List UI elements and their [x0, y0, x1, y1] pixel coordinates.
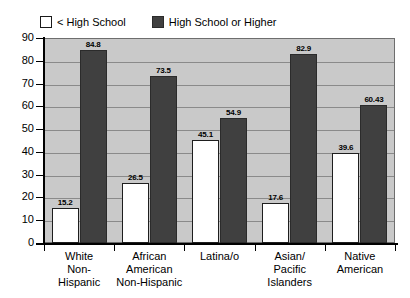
bar-value-label: 45.1: [188, 130, 223, 139]
bar: [360, 105, 387, 243]
y-axis-tick-mark: [36, 243, 44, 244]
bar-value-label: 54.9: [216, 108, 251, 117]
y-axis-tick-mark: [36, 129, 44, 130]
bar: [122, 183, 149, 243]
bar: [220, 118, 247, 243]
dark-square-icon: [152, 16, 164, 28]
y-axis-tick-label: 40: [8, 146, 34, 157]
light-square-icon: [40, 16, 52, 28]
legend-entry-less-than-high-school: < High School: [40, 16, 126, 28]
y-axis-tick-label: 60: [8, 100, 34, 111]
bar-value-label: 73.5: [146, 66, 181, 75]
x-axis-line: [36, 243, 398, 245]
y-axis-tick-label: 80: [8, 55, 34, 66]
y-axis-tick-mark: [36, 175, 44, 176]
y-axis-tick-label: 10: [8, 214, 34, 225]
legend-label: < High School: [57, 16, 126, 28]
y-axis-tick-label: 30: [8, 169, 34, 180]
y-axis-tick-label: 70: [8, 78, 34, 89]
bar: [150, 76, 177, 243]
bar: [192, 140, 219, 243]
bar: [52, 208, 79, 243]
bar-value-label: 60.43: [356, 95, 391, 104]
bar-value-label: 15.2: [48, 198, 83, 207]
y-axis-tick-mark: [36, 220, 44, 221]
legend-entry-high-school-or-higher: High School or Higher: [152, 16, 277, 28]
y-axis-tick-labels: 9080706050403020100: [0, 0, 34, 298]
bar: [262, 203, 289, 243]
y-axis-tick-mark: [36, 197, 44, 198]
bar-value-label: 82.9: [286, 44, 321, 53]
x-axis-category-label: Native American: [317, 250, 403, 276]
y-axis-tick-mark: [36, 61, 44, 62]
chart-legend: < High School High School or Higher: [40, 12, 276, 32]
bar-value-label: 26.5: [118, 173, 153, 182]
y-axis-tick-mark: [36, 152, 44, 153]
y-axis-tick-label: 0: [8, 237, 34, 248]
bar-chart: < High School High School or Higher 9080…: [0, 0, 410, 298]
legend-label: High School or Higher: [169, 16, 277, 28]
y-axis-tick-mark: [36, 38, 44, 39]
bar-value-label: 17.6: [258, 193, 293, 202]
bar-value-label: 84.8: [76, 40, 111, 49]
bar: [80, 50, 107, 243]
bar-value-label: 39.6: [328, 143, 363, 152]
y-axis-line: [43, 37, 45, 245]
bar: [290, 54, 317, 243]
y-axis-tick-label: 90: [8, 32, 34, 43]
y-axis-tick-mark: [36, 106, 44, 107]
y-axis-tick-mark: [36, 84, 44, 85]
y-axis-tick-label: 20: [8, 191, 34, 202]
bar: [332, 153, 359, 243]
y-axis-tick-label: 50: [8, 123, 34, 134]
